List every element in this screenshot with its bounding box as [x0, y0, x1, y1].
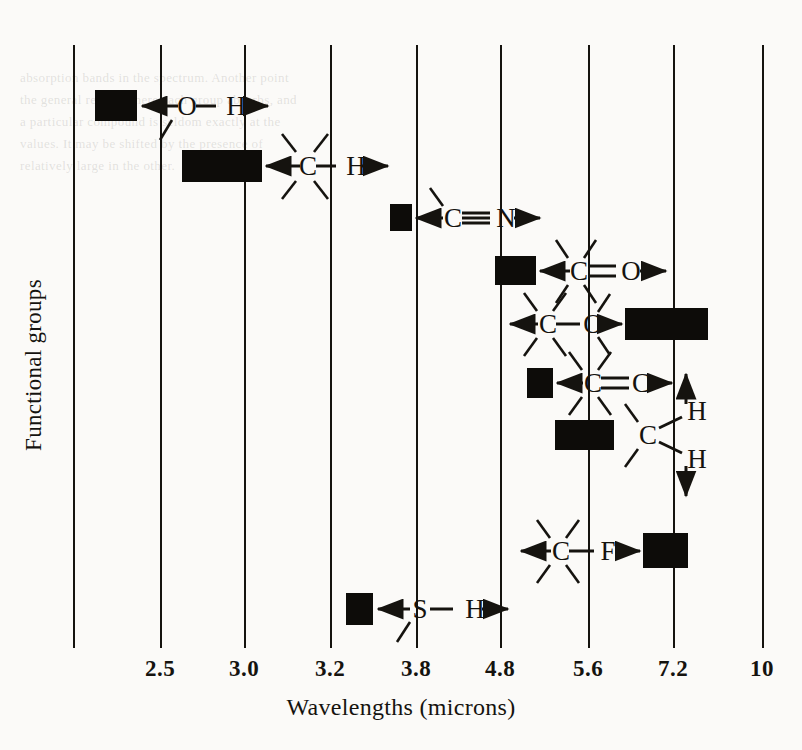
band-cf	[643, 533, 688, 568]
tick-label-5-6: 5.6	[573, 656, 603, 682]
atom-label-ch2-c: C	[639, 422, 657, 449]
y-axis-title: Functional groups	[21, 255, 47, 475]
atom-label-ether-c: C	[539, 311, 557, 338]
atom-label-sh-right: H	[465, 596, 485, 623]
atom-label-oh-left: O	[177, 93, 197, 120]
ir-correlation-chart: absorption bands in the spectrum. Anothe…	[0, 0, 802, 750]
gridline-4-8	[500, 45, 502, 648]
band-co-single	[625, 308, 708, 340]
gridline-left-border	[73, 45, 75, 648]
atom-label-ch2-h-top: H	[687, 398, 707, 425]
gridline-10	[762, 45, 764, 648]
atom-label-ch2-h-bottom: H	[687, 446, 707, 473]
atom-label-ether-o: O	[583, 311, 603, 338]
atom-label-cc-left: C	[584, 370, 602, 397]
band-cc	[527, 368, 553, 398]
atom-label-cf-left: C	[552, 538, 570, 565]
gridline-3-2	[330, 45, 332, 648]
band-ch	[182, 150, 262, 182]
atom-label-cc-right: C	[632, 370, 650, 397]
tick-label-3-8: 3.8	[401, 656, 431, 682]
band-oh	[95, 90, 137, 121]
ghost-text-line-2: the general region where each group abso…	[20, 92, 297, 108]
tick-label-3-0: 3.0	[229, 656, 259, 682]
atom-label-cf-right: F	[600, 538, 615, 565]
tick-label-4-8: 4.8	[485, 656, 515, 682]
tick-label-10: 10	[750, 656, 774, 682]
atom-label-ch-left: C	[299, 153, 317, 180]
ghost-text-line-1: absorption bands in the spectrum. Anothe…	[20, 70, 289, 86]
band-ch2	[555, 420, 614, 450]
atom-label-cn-left: C	[444, 205, 462, 232]
atom-label-ch-right: H	[346, 153, 366, 180]
atom-label-cn-right: N	[496, 205, 516, 232]
atom-label-carbonyl-c: C	[570, 258, 588, 285]
band-cn	[390, 204, 412, 231]
ghost-text-line-5: relatively large in the other.	[20, 158, 175, 174]
tick-label-2-5: 2.5	[145, 656, 175, 682]
x-axis-title: Wavelengths (microns)	[0, 694, 802, 721]
gridline-2-5	[160, 45, 162, 648]
atom-label-oh-right: H	[226, 93, 246, 120]
tick-label-7-2: 7.2	[658, 656, 688, 682]
gridline-3-8	[416, 45, 418, 648]
tick-label-3-2: 3.2	[315, 656, 345, 682]
atom-label-sh-left: S	[412, 596, 427, 623]
band-co-double	[495, 256, 536, 285]
band-sh	[346, 593, 373, 625]
atom-label-carbonyl-o: O	[621, 258, 641, 285]
gridline-5-6	[588, 45, 590, 648]
gridline-3-0	[244, 45, 246, 648]
